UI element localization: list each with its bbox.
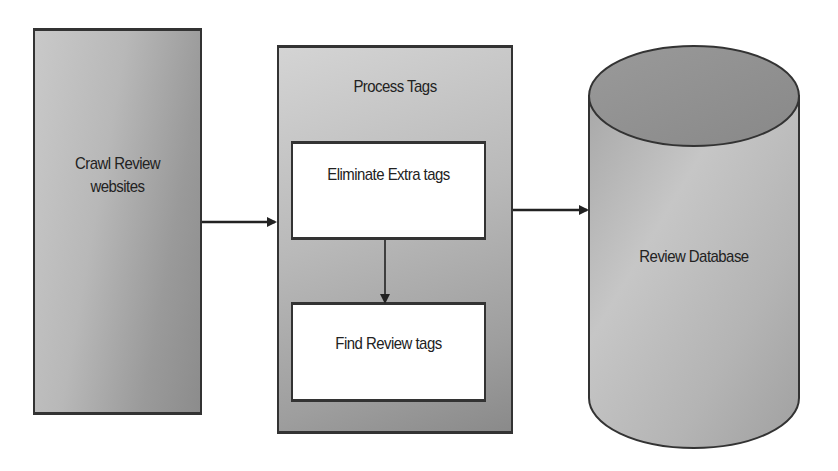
review-database-label: Review Database [602,240,787,274]
diagram-canvas [0,0,838,471]
cylinder-top [589,46,799,146]
